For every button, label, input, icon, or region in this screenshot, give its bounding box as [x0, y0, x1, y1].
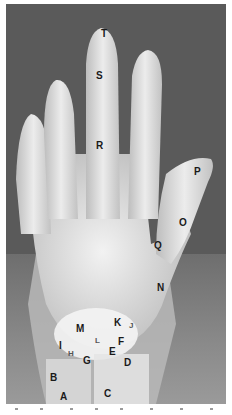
- label-n: N: [157, 283, 164, 293]
- label-m: M: [76, 324, 84, 334]
- label-l: L: [95, 337, 100, 345]
- label-a: A: [60, 392, 67, 402]
- label-c: C: [104, 389, 111, 399]
- label-j: J: [129, 322, 133, 330]
- label-h: H: [68, 350, 74, 358]
- hand-bones-illustration: [6, 4, 226, 404]
- label-q: Q: [154, 241, 162, 251]
- label-i: I: [59, 341, 62, 351]
- label-g: G: [83, 356, 91, 366]
- label-r: R: [96, 141, 103, 151]
- label-t: T: [101, 29, 107, 39]
- label-d: D: [124, 358, 131, 368]
- label-o: O: [179, 218, 187, 228]
- label-s: S: [96, 71, 103, 81]
- label-f: F: [118, 337, 124, 347]
- faint-caption-marks: [0, 405, 232, 415]
- xray-image: [6, 4, 226, 404]
- label-p: P: [194, 167, 201, 177]
- label-k: K: [114, 318, 121, 328]
- label-b: B: [50, 373, 57, 383]
- label-e: E: [109, 347, 116, 357]
